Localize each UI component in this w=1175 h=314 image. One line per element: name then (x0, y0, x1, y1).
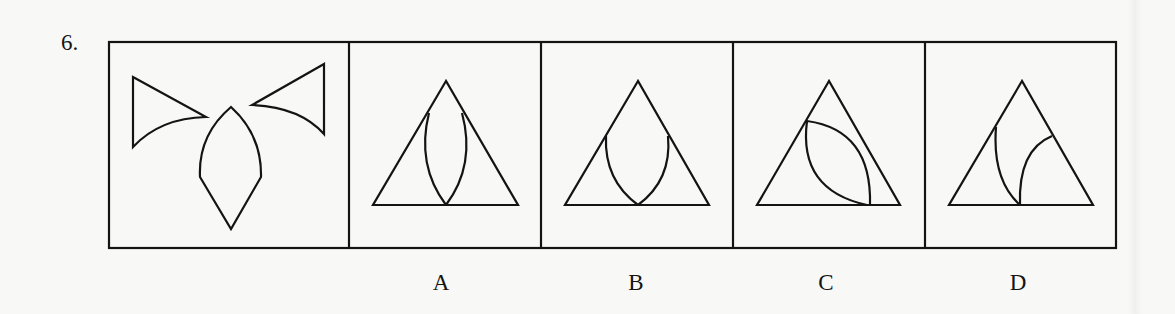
panel-frame (109, 42, 1116, 248)
option-label-b[interactable]: B (616, 270, 656, 296)
option-label-d[interactable]: D (998, 270, 1038, 296)
option-b-figure[interactable] (565, 81, 709, 205)
option-label-a[interactable]: A (421, 270, 461, 296)
option-c-figure[interactable] (757, 81, 900, 205)
puzzle-figure (0, 0, 1175, 314)
lens-piece (200, 107, 261, 229)
right-concave-triangle-piece (252, 64, 324, 134)
option-a-figure[interactable] (373, 81, 518, 205)
option-d-figure[interactable] (949, 81, 1093, 205)
question-panel (133, 64, 324, 229)
left-concave-triangle-piece (133, 77, 206, 147)
option-label-c[interactable]: C (806, 270, 846, 296)
